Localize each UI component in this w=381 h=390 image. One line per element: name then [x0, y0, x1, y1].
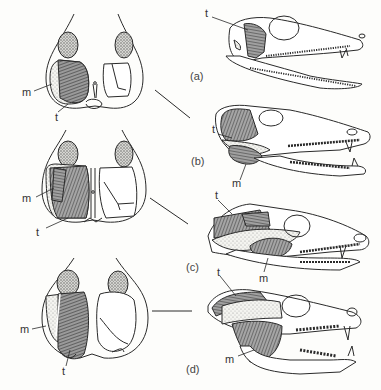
label-temporalis-dorsal-d: t — [62, 366, 65, 377]
dorsal-view-d — [42, 258, 148, 359]
lateral-view-c — [208, 204, 369, 270]
label-temporalis-lateral-a: t — [205, 8, 208, 19]
label-temporalis-lateral-c: t — [215, 190, 218, 201]
lateral-view-a — [226, 16, 365, 89]
label-temporalis-lateral-d: t — [217, 267, 220, 278]
diagram-drawing — [0, 0, 381, 390]
panel-label-a: (a) — [190, 71, 203, 82]
label-temporalis-lateral-b: t — [212, 124, 215, 135]
label-masseter-lateral-d: m — [225, 354, 234, 365]
panel-label-c: (c) — [186, 262, 199, 273]
lateral-view-b — [215, 105, 370, 176]
panel-label-d: (d) — [186, 364, 199, 375]
panel-label-b: (b) — [191, 156, 204, 167]
label-temporalis-dorsal-b: t — [36, 227, 39, 238]
connector-a — [155, 90, 190, 118]
label-temporalis-dorsal-a: t — [55, 112, 58, 123]
label-masseter-lateral-b: m — [232, 178, 241, 189]
dorsal-view-a — [46, 14, 143, 109]
dorsal-view-b — [42, 130, 146, 222]
label-masseter-lateral-c: m — [259, 273, 268, 284]
label-masseter-dorsal-d: m — [20, 324, 29, 335]
label-masseter-dorsal-a: m — [22, 87, 31, 98]
label-masseter-dorsal-b: m — [22, 193, 31, 204]
connector-b — [150, 198, 188, 224]
figure-canvas: m t t (a) m t t (b) m t (c) m m t t m (d… — [0, 0, 381, 390]
